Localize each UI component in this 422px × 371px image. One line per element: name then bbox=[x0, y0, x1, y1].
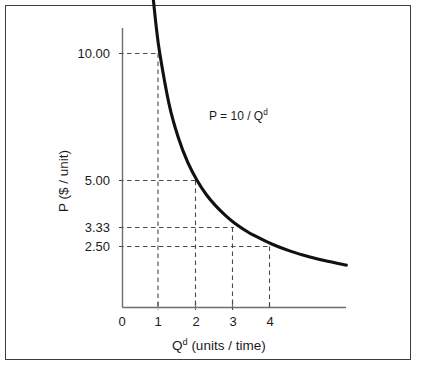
y-tick-label-10: 10.00 bbox=[62, 47, 110, 60]
y-tick-label-250: 2.50 bbox=[62, 240, 110, 253]
x-tick-label-2: 2 bbox=[186, 315, 206, 328]
x-axis-title-base: Q bbox=[172, 338, 183, 353]
x-axis-title-tail: (units / time) bbox=[188, 338, 266, 353]
equation-annotation: P = 10 / Qd bbox=[209, 110, 268, 122]
x-tick-label-1: 1 bbox=[148, 315, 168, 328]
y-tick-label-333: 3.33 bbox=[62, 221, 110, 234]
x-tick-label-0: 0 bbox=[112, 315, 132, 328]
x-axis-title: Qd (units / time) bbox=[172, 339, 266, 353]
x-axis-ticks bbox=[158, 302, 270, 308]
horizontal-guide-lines bbox=[119, 54, 271, 247]
equation-base: P = 10 / Q bbox=[209, 109, 263, 123]
demand-curve-line bbox=[152, 0, 346, 265]
y-axis-title: P ($ / unit) bbox=[57, 150, 71, 212]
vertical-guide-lines bbox=[158, 54, 270, 311]
x-tick-label-3: 3 bbox=[223, 315, 243, 328]
x-tick-label-4: 4 bbox=[260, 315, 280, 328]
equation-superscript: d bbox=[263, 108, 268, 117]
